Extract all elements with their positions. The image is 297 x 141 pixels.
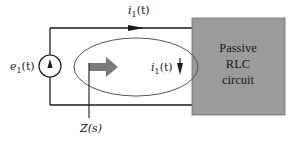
block-line-3: circuit <box>222 73 254 87</box>
impedance-arrow-icon <box>89 57 118 77</box>
block-line-2: RLC <box>226 57 250 71</box>
impedance-label: Z(s) <box>79 122 102 135</box>
top-current-label: i1(t) <box>128 4 150 19</box>
circuit-diagram: Passive RLC circuit Z(s) i1(t) i1(t) e1(… <box>0 0 297 141</box>
loop-current-arrow-icon <box>177 63 183 75</box>
loop-current-label: i1(t) <box>151 61 173 76</box>
source-label: e1(t) <box>10 60 35 75</box>
top-current-arrow-icon <box>128 25 144 31</box>
current-source-icon <box>39 55 61 77</box>
block-line-1: Passive <box>219 41 257 55</box>
